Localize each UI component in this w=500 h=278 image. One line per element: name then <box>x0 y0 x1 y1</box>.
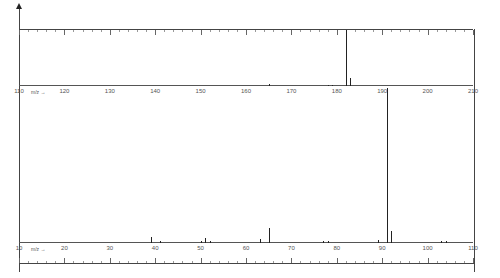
tick-label-90: 90 <box>379 245 386 251</box>
minor-tick <box>146 261 147 263</box>
major-tick <box>428 258 429 263</box>
minor-tick <box>364 261 365 263</box>
peak-mz-182 <box>346 30 347 86</box>
major-tick <box>246 258 247 263</box>
top-peaks-container <box>19 30 473 86</box>
tick-label-110: 110 <box>468 245 478 251</box>
peak-mz-103 <box>441 241 442 243</box>
tick-label-100: 100 <box>423 245 433 251</box>
minor-tick <box>83 261 84 263</box>
peak-mz-77 <box>323 241 324 243</box>
peak-mz-89 <box>378 240 379 243</box>
major-tick <box>110 258 111 263</box>
minor-tick <box>373 261 374 263</box>
peak-mz-41 <box>160 241 161 243</box>
minor-tick <box>73 261 74 263</box>
tick-label-30: 30 <box>106 245 113 251</box>
minor-tick <box>210 261 211 263</box>
peak-mz-50 <box>201 241 202 243</box>
peak-mz-92 <box>391 231 392 243</box>
right-frame-line <box>474 29 475 272</box>
major-tick <box>473 258 474 263</box>
minor-tick <box>346 261 347 263</box>
bottom-axis-unit: m/z → <box>31 246 45 252</box>
tick-label-10: 10 <box>16 245 23 251</box>
intensity-arrow-icon <box>16 3 22 9</box>
minor-tick <box>255 261 256 263</box>
minor-tick <box>391 261 392 263</box>
bottom-peaks-container <box>19 88 473 243</box>
minor-tick <box>282 261 283 263</box>
minor-tick <box>37 261 38 263</box>
minor-tick <box>319 261 320 263</box>
peak-mz-52 <box>210 241 211 243</box>
major-tick <box>382 258 383 263</box>
major-tick <box>19 258 20 263</box>
major-tick <box>291 258 292 263</box>
major-tick <box>201 258 202 263</box>
bottom-frame-line <box>19 263 474 264</box>
minor-tick <box>264 261 265 263</box>
minor-tick <box>437 261 438 263</box>
minor-tick <box>446 261 447 263</box>
minor-tick <box>46 261 47 263</box>
peak-mz-179 <box>332 85 333 86</box>
minor-tick <box>28 261 29 263</box>
tick-label-80: 80 <box>333 245 340 251</box>
minor-tick <box>192 261 193 263</box>
minor-tick <box>182 261 183 263</box>
minor-tick <box>164 261 165 263</box>
minor-tick <box>464 261 465 263</box>
minor-tick <box>228 261 229 263</box>
minor-tick <box>419 261 420 263</box>
minor-tick <box>173 261 174 263</box>
minor-tick <box>455 261 456 263</box>
peak-mz-178 <box>328 85 329 86</box>
tick-label-20: 20 <box>61 245 68 251</box>
tick-label-50: 50 <box>197 245 204 251</box>
minor-tick <box>137 261 138 263</box>
peak-mz-183 <box>350 78 351 86</box>
minor-tick <box>300 261 301 263</box>
peak-mz-51 <box>205 238 206 243</box>
minor-tick <box>355 261 356 263</box>
peak-mz-78 <box>328 241 329 243</box>
top-spectrum-panel <box>19 30 473 86</box>
bottom-spectrum-panel <box>19 88 473 243</box>
minor-tick <box>92 261 93 263</box>
peak-mz-65 <box>269 228 270 244</box>
minor-tick <box>400 261 401 263</box>
peak-mz-63 <box>260 239 261 243</box>
minor-tick <box>119 261 120 263</box>
major-tick <box>155 258 156 263</box>
minor-tick <box>101 261 102 263</box>
major-tick <box>64 258 65 263</box>
minor-tick <box>409 261 410 263</box>
tick-label-40: 40 <box>152 245 159 251</box>
minor-tick <box>237 261 238 263</box>
minor-tick <box>219 261 220 263</box>
peak-mz-39 <box>151 237 152 243</box>
minor-tick <box>273 261 274 263</box>
minor-tick <box>310 261 311 263</box>
major-tick <box>337 258 338 263</box>
tick-label-60: 60 <box>243 245 250 251</box>
peak-mz-91 <box>387 88 388 243</box>
minor-tick <box>128 261 129 263</box>
minor-tick <box>328 261 329 263</box>
peak-mz-165 <box>269 84 270 86</box>
tick-label-70: 70 <box>288 245 295 251</box>
peak-mz-104 <box>446 241 447 243</box>
minor-tick <box>55 261 56 263</box>
